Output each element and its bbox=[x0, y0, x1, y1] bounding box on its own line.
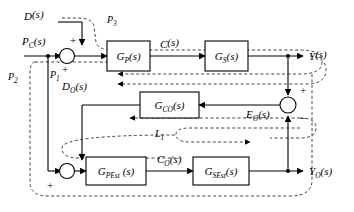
sign-bottom-sum-lower: + bbox=[47, 179, 53, 191]
diagram-canvas: GP(s) GS(s) GCO(s) GPEst (s) GSEst(s) D(… bbox=[0, 0, 354, 212]
sign-top-sum-upper: + bbox=[70, 34, 76, 46]
sum-junction-bottom bbox=[60, 164, 75, 179]
region-label-p2: P2 bbox=[7, 71, 18, 85]
region-label-p3: P3 bbox=[106, 14, 117, 28]
sum-junction-top bbox=[60, 49, 75, 64]
sign-bottom-sum-upper: + bbox=[78, 149, 84, 161]
region-path-p3 bbox=[62, 18, 322, 74]
signal-y-label: Y(s) bbox=[309, 48, 327, 63]
signal-yo-label: YO(s) bbox=[309, 165, 332, 180]
signal-pc-label: PC(s) bbox=[21, 35, 46, 50]
region-path-l1 bbox=[176, 128, 300, 142]
sign-top-sum-lower: + bbox=[62, 63, 68, 75]
sign-right-sum-plus: + bbox=[300, 84, 306, 96]
signal-do-label: DO(s) bbox=[61, 80, 87, 95]
signal-co-label: CO(s) bbox=[157, 153, 182, 168]
signal-c-label: C(s) bbox=[160, 36, 179, 51]
signal-eo-label: EO(s) bbox=[245, 108, 270, 123]
block-diagram: GP(s) GS(s) GCO(s) GPEst (s) GSEst(s) D(… bbox=[0, 0, 354, 212]
signal-d-label: D(s) bbox=[23, 8, 44, 23]
junction-dot-yo bbox=[286, 169, 290, 173]
sign-right-sum-minus: − bbox=[300, 112, 306, 124]
region-label-l1: L1 bbox=[154, 128, 164, 142]
sum-junction-right bbox=[280, 97, 296, 113]
region-label-p1: P1 bbox=[49, 69, 60, 83]
